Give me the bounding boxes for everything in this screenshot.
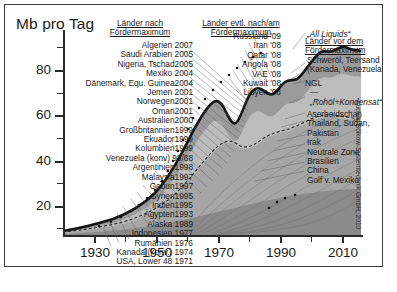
label-rohoel-kondensat: —„Rohöl+Kondensat“ xyxy=(310,87,382,107)
chart-panel: Mb pro Tag xyxy=(4,4,383,267)
country-item: Libyen '08 xyxy=(155,88,281,97)
country-list-right-top: Schweröl, Teersand (Kanada, Venezuela) xyxy=(307,56,383,75)
x-tick-1980 xyxy=(249,236,250,242)
x-tick-1970 xyxy=(218,236,220,243)
x-label-1990: 1990 xyxy=(251,245,311,260)
x-tick-2010 xyxy=(342,236,344,243)
x-tick-2000 xyxy=(311,236,312,242)
x-label-1970: 1970 xyxy=(189,245,249,260)
copyright-credit: Ludwig Bölkow-Systemtechnik GmbH, 2010 xyxy=(355,101,362,229)
country-list-middle: Russland '09 Iran '08 Qatar '08 Angola '… xyxy=(155,32,281,98)
x-label-2010: 2010 xyxy=(313,245,373,260)
country-item: (Kanada, Venezuela) xyxy=(307,65,383,74)
x-tick-1990 xyxy=(280,236,282,243)
header-laender-vor-dem-foerdermaximum: Länder vor dem Fördermaximum xyxy=(305,37,383,56)
